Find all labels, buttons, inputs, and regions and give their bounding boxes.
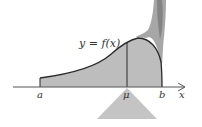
label-a: a — [37, 89, 43, 100]
label-x: x — [179, 89, 185, 100]
label-mu: μ — [123, 89, 130, 100]
curve-label: y = f(x) — [78, 37, 120, 50]
label-b: b — [159, 89, 165, 100]
balance-diagram: y = f(x) a μ b x — [0, 0, 202, 127]
